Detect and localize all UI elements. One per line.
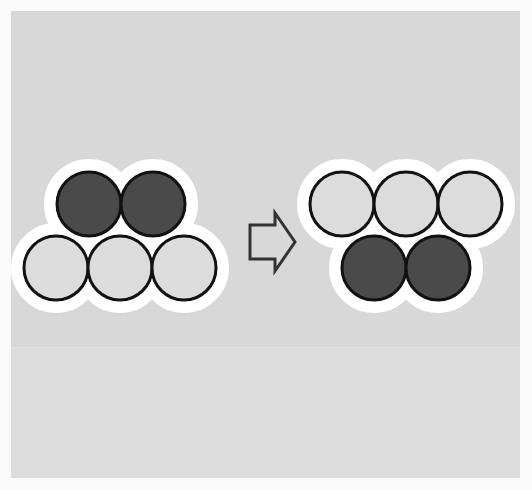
rightwards-double-arrow-icon	[250, 213, 295, 271]
left-cluster[interactable]	[18, 166, 223, 307]
sphere-light[interactable]	[310, 172, 374, 236]
sphere-dark[interactable]	[406, 236, 470, 300]
sphere-cluster-diagram	[0, 0, 532, 490]
sphere-light[interactable]	[88, 236, 152, 300]
sphere-dark[interactable]	[342, 236, 406, 300]
sphere-dark[interactable]	[121, 172, 185, 236]
sphere-light[interactable]	[438, 172, 502, 236]
sphere-dark[interactable]	[57, 172, 121, 236]
figure-canvas: Sphere cluster rearrangement	[0, 0, 532, 490]
sphere-light[interactable]	[24, 236, 88, 300]
sphere-light[interactable]	[374, 172, 438, 236]
transformation-arrow[interactable]	[250, 213, 295, 271]
right-cluster[interactable]	[304, 166, 509, 307]
sphere-light[interactable]	[152, 236, 216, 300]
